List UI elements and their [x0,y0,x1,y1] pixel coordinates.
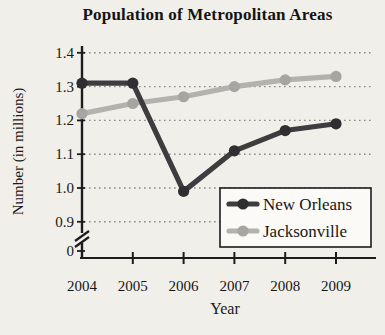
data-point [127,78,138,89]
data-point [330,71,341,82]
data-point [280,125,291,136]
data-point [229,145,240,156]
legend-marker [237,198,248,209]
y-tick-label: 1.2 [55,112,74,128]
data-point [76,108,87,119]
chart-figure: Population of Metropolitan Areas Number … [0,0,385,335]
x-tick-label: 2006 [169,278,200,294]
data-point [229,81,240,92]
data-point [178,186,189,197]
legend-label: Jacksonville [263,222,347,241]
x-tick-label: 2008 [270,278,300,294]
y-tick-label: 1.3 [55,79,74,95]
data-point [178,91,189,102]
y-tick-label: 1.0 [55,180,74,196]
x-tick-label: 2009 [321,278,351,294]
y-tick-label: 0.9 [55,214,74,230]
data-point [127,98,138,109]
legend-label: New Orleans [263,195,352,214]
data-point [76,78,87,89]
data-point [280,74,291,85]
x-axis-title: Year [100,300,350,318]
x-tick-label: 2004 [67,278,98,294]
series-line-new-orleans [82,83,336,191]
x-tick-label: 2007 [219,278,250,294]
plot-area: 1.41.31.21.11.00.90200420052006200720082… [0,0,385,335]
data-point [330,118,341,129]
y-tick-label: 1.4 [55,45,74,61]
legend-marker [237,225,248,236]
y-tick-label: 1.1 [55,146,74,162]
y-zero-label: 0 [67,243,75,259]
x-tick-label: 2005 [118,278,148,294]
